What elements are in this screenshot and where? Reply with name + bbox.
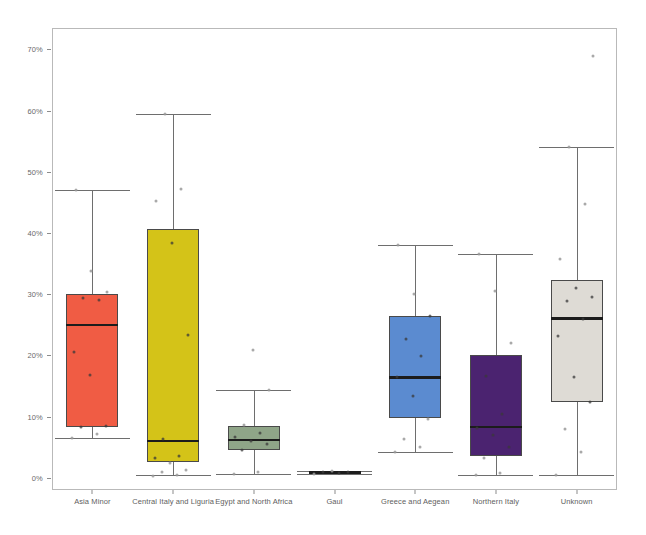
data-point xyxy=(583,202,586,205)
median-line xyxy=(551,317,603,320)
whisker-cap-upper xyxy=(539,147,614,148)
x-tick-mark xyxy=(92,490,93,494)
x-axis: Asia MinorCentral Italy and LiguriaEgypt… xyxy=(52,490,617,520)
whisker-lower xyxy=(577,402,578,475)
data-point xyxy=(581,317,584,320)
y-tick-label: 10% xyxy=(27,412,43,421)
x-tick-label: Unknown xyxy=(561,497,593,506)
x-tick-mark xyxy=(576,490,577,494)
data-point xyxy=(572,375,575,378)
x-tick-mark xyxy=(415,490,416,494)
y-tick-mark xyxy=(47,294,51,295)
data-point xyxy=(567,146,570,149)
data-point xyxy=(592,54,595,57)
y-tick-mark xyxy=(47,172,51,173)
y-tick-label: 30% xyxy=(27,290,43,299)
y-tick-label: 70% xyxy=(27,45,43,54)
x-tick-label: Greece and Aegean xyxy=(381,497,449,506)
x-tick-mark xyxy=(334,490,335,494)
whisker-cap-lower xyxy=(539,475,614,476)
x-tick-label: Egypt and North Africa xyxy=(215,497,292,506)
data-point xyxy=(557,334,560,337)
data-point xyxy=(555,474,558,477)
y-tick-label: 20% xyxy=(27,351,43,360)
whisker-upper xyxy=(577,147,578,280)
y-tick-mark xyxy=(47,355,51,356)
box-plot-chart: 0%10%20%30%40%50%60%70% Asia MinorCentra… xyxy=(0,0,646,535)
x-tick-label: Northern Italy xyxy=(473,497,519,506)
x-tick-mark xyxy=(495,490,496,494)
plot-area xyxy=(52,28,617,490)
y-tick-label: 60% xyxy=(27,106,43,115)
data-point xyxy=(558,257,561,260)
data-point xyxy=(588,401,591,404)
x-tick-mark xyxy=(173,490,174,494)
box-plot-group[interactable] xyxy=(52,28,617,490)
y-tick-mark xyxy=(47,478,51,479)
y-axis: 0%10%20%30%40%50%60%70% xyxy=(0,28,52,490)
y-tick-mark xyxy=(47,49,51,50)
data-point xyxy=(565,299,568,302)
y-tick-label: 50% xyxy=(27,167,43,176)
y-tick-label: 0% xyxy=(32,473,43,482)
y-tick-mark xyxy=(47,233,51,234)
x-tick-mark xyxy=(253,490,254,494)
box-rect[interactable] xyxy=(551,280,603,402)
y-tick-mark xyxy=(47,111,51,112)
y-tick-label: 40% xyxy=(27,228,43,237)
data-point xyxy=(590,296,593,299)
data-point xyxy=(580,451,583,454)
data-point xyxy=(574,287,577,290)
y-tick-mark xyxy=(47,417,51,418)
x-tick-label: Asia Minor xyxy=(74,497,110,506)
x-tick-label: Central Italy and Liguria xyxy=(132,497,214,506)
x-tick-label: Gaul xyxy=(326,497,342,506)
data-point xyxy=(564,427,567,430)
